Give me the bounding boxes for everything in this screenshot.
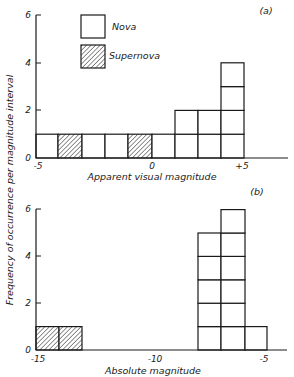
- x-tick-label: -5: [34, 161, 43, 171]
- y-axis-title: Frequency of occurrence per magnitude in…: [4, 74, 15, 305]
- nova-bar-unit: [198, 134, 221, 158]
- nova-bar-unit: [221, 110, 244, 134]
- legend: Nova Supernova: [81, 15, 160, 68]
- y-tick-label: 4: [25, 58, 31, 68]
- nova-bar-unit: [221, 210, 245, 233]
- nova-bar-unit: [245, 327, 267, 350]
- legend-nova-label: Nova: [112, 21, 137, 32]
- y-tick-label: 0: [25, 153, 31, 163]
- legend-supernova-label: Supernova: [109, 50, 160, 61]
- nova-bar-unit: [221, 256, 245, 279]
- supernova-bar-unit: [36, 327, 59, 350]
- y-tick-label: 6: [25, 10, 31, 20]
- panel-a-x-tick-labels: -50+5: [34, 161, 249, 171]
- supernova-bar-unit: [59, 327, 82, 350]
- nova-bar-unit: [198, 303, 221, 326]
- nova-bar-unit: [221, 134, 244, 158]
- panel-a-apparent-magnitude: 0246 -50+5 Apparent visual magnitude (a): [25, 5, 288, 182]
- nova-bar-unit: [198, 233, 221, 256]
- legend-nova-swatch: [81, 15, 105, 38]
- y-tick-label: 6: [25, 204, 31, 214]
- figure: Frequency of occurrence per magnitude in…: [0, 0, 294, 377]
- nova-bar-unit: [82, 134, 105, 158]
- x-tick-label: -15: [31, 354, 46, 364]
- y-tick-label: 2: [25, 105, 31, 115]
- panel-b-absolute-magnitude: 0246 -15-10-5 Absolute magnitude (b): [25, 186, 287, 376]
- nova-bar-unit: [221, 63, 244, 87]
- nova-bar-unit: [198, 280, 221, 303]
- nova-bar-unit: [105, 134, 128, 158]
- panel-a-label: (a): [259, 5, 272, 16]
- x-tick-label: -10: [148, 354, 163, 364]
- legend-supernova-swatch: [81, 45, 105, 68]
- nova-bar-unit: [198, 256, 221, 279]
- panel-b-bars: [36, 210, 267, 350]
- supernova-bar-unit: [128, 134, 152, 158]
- x-tick-label: +5: [235, 161, 249, 171]
- nova-bar-unit: [152, 134, 175, 158]
- y-tick-label: 4: [25, 251, 31, 261]
- x-tick-label: 0: [149, 161, 155, 171]
- panel-b-x-tick-labels: -15-10-5: [31, 354, 269, 364]
- nova-bar-unit: [221, 280, 245, 303]
- nova-bar-unit: [221, 233, 245, 256]
- panel-b-x-axis-title: Absolute magnitude: [104, 365, 201, 376]
- y-tick-label: 2: [25, 298, 31, 308]
- panel-a-bars: [36, 63, 244, 158]
- nova-bar-unit: [221, 303, 245, 326]
- histogram-figure: Frequency of occurrence per magnitude in…: [0, 0, 294, 377]
- panel-a-x-axis-title: Apparent visual magnitude: [87, 171, 217, 182]
- nova-bar-unit: [221, 327, 245, 350]
- nova-bar-unit: [36, 134, 58, 158]
- panel-b-label: (b): [250, 186, 263, 197]
- supernova-bar-unit: [58, 134, 82, 158]
- x-tick-label: -5: [260, 354, 269, 364]
- nova-bar-unit: [221, 87, 244, 111]
- nova-bar-unit: [175, 110, 198, 134]
- nova-bar-unit: [175, 134, 198, 158]
- nova-bar-unit: [198, 110, 221, 134]
- nova-bar-unit: [198, 327, 221, 350]
